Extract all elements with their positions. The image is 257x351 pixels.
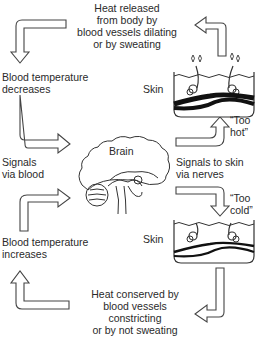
label-line: via nerves xyxy=(176,168,244,180)
label-line: Blood temperature xyxy=(2,71,88,83)
skin-cold-icon xyxy=(174,220,254,263)
blood-temp-decreases-label: Blood temperature decreases xyxy=(2,71,88,95)
skin-top-label: Skin xyxy=(143,83,163,95)
caption-line: Heat conserved by xyxy=(76,288,194,300)
blood-temp-increases-label: Blood temperature increases xyxy=(2,236,88,260)
too-hot-label: “Too hot” xyxy=(230,114,250,138)
signals-via-blood-label: Signals via blood xyxy=(2,156,44,180)
signals-to-skin-label: Signals to skin via nerves xyxy=(176,156,244,180)
arrow-top-left xyxy=(11,20,66,63)
arrow-to-brain-upper xyxy=(20,95,70,153)
label-line: Blood temperature xyxy=(2,236,88,248)
heat-conserved-caption: Heat conserved by blood vessels constric… xyxy=(76,288,194,336)
arrow-top-right xyxy=(195,17,226,56)
skin-bottom-label: Skin xyxy=(143,233,163,245)
arrow-to-brain-lower xyxy=(20,189,70,231)
too-cold-label: “Too cold” xyxy=(230,192,253,216)
brain-label: Brain xyxy=(109,145,134,157)
label-line: via blood xyxy=(2,168,44,180)
arrow-bottom-right xyxy=(195,268,224,322)
arrow-too-hot xyxy=(176,117,229,146)
arrow-bottom-left xyxy=(11,271,69,309)
label-line: cold” xyxy=(230,204,253,216)
caption-line: or by sweating xyxy=(64,38,190,50)
caption-line: or by not sweating xyxy=(76,324,194,336)
skin-hot-icon xyxy=(174,53,254,117)
caption-line: from body by xyxy=(64,14,190,26)
label-line: “Too xyxy=(230,192,253,204)
label-line: Signals to skin xyxy=(176,156,244,168)
caption-line: constricting xyxy=(76,312,194,324)
label-line: increases xyxy=(2,248,88,260)
caption-line: blood vessels dilating xyxy=(64,26,190,38)
label-line: “Too xyxy=(230,114,250,126)
heat-released-caption: Heat released from body by blood vessels… xyxy=(64,2,190,50)
label-line: decreases xyxy=(2,83,88,95)
arrow-too-cold xyxy=(176,187,229,216)
caption-line: Heat released xyxy=(64,2,190,14)
label-line: hot” xyxy=(230,126,250,138)
label-line: Signals xyxy=(2,156,44,168)
caption-line: blood vessels xyxy=(76,300,194,312)
